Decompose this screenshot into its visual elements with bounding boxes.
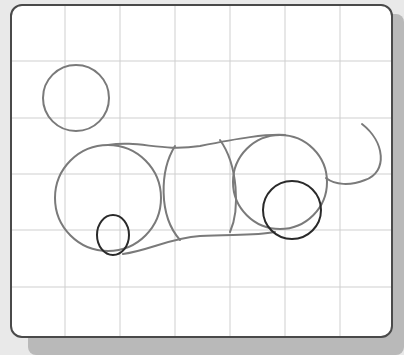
- chest-circle: [55, 145, 161, 251]
- middle-body-shape: [164, 140, 236, 240]
- tail-curve: [326, 124, 381, 184]
- sketch-canvas: [0, 0, 404, 355]
- front-leg-ellipse: [97, 215, 129, 255]
- hip-circle: [233, 135, 327, 229]
- head-circle: [43, 65, 109, 131]
- grid: [0, 0, 404, 355]
